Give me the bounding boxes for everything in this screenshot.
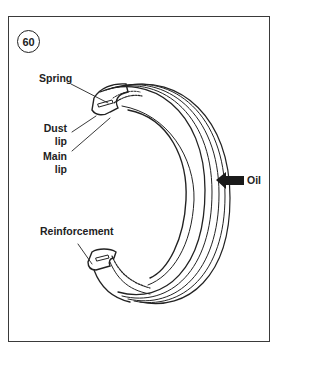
label-main-lip: Main lip [41,150,67,176]
upper-cross-section [92,84,142,115]
label-reinforcement: Reinforcement [40,225,114,238]
label-dust-lip: Dust lip [41,122,67,148]
seal-ring-arcs [100,84,230,304]
label-spring: Spring [39,72,72,85]
label-oil: Oil [247,174,261,187]
